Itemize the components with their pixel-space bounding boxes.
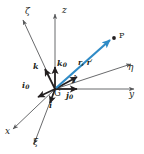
axis-label-zeta: ζ [25, 7, 30, 16]
unit-vector-sub-k0: 0 [63, 61, 67, 68]
unit-vector-label-k: k [33, 62, 39, 70]
unit-vector-label-i0: i0 [22, 81, 29, 90]
diagram-canvas [0, 0, 144, 154]
point-label-p: P [119, 32, 124, 40]
axis-label-y: y [129, 90, 134, 99]
axis-label-z: z [62, 6, 67, 15]
axis-label-xi: ξ [33, 138, 38, 147]
unit-vector-sub-j0: 0 [69, 93, 73, 100]
unit-vector-label-i: i [49, 101, 52, 109]
axis-label-x: x [5, 127, 10, 136]
unit-vector-label-j0: j0 [66, 91, 73, 100]
unit-vector-label-j: j [73, 74, 76, 82]
origin-label-g: G [54, 89, 61, 98]
position-vector-label: r, r′ [78, 59, 93, 67]
unit-vector-k-arrow [45, 69, 55, 89]
axis-label-eta: η [128, 63, 133, 72]
point-p-marker [112, 36, 116, 40]
vector-diagram-figure: z y x ζ η ξ G P r, r′ k0 j0 i0 k j i [0, 0, 144, 154]
unit-vector-label-k0: k0 [57, 59, 67, 68]
unit-vector-sub-i0: 0 [25, 83, 29, 90]
unit-vector-base-k0: k [57, 58, 63, 68]
